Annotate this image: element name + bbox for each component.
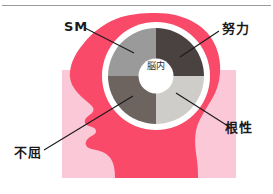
- callout-label-doryoku: 努力: [222, 22, 249, 35]
- callout-label-sm: SM: [64, 20, 88, 33]
- brain-pie-diagram: SM 努力 根性 不屈 脳内: [0, 0, 273, 194]
- callout-label-konjo: 根性: [225, 121, 252, 134]
- center-circle-label: 脳内: [139, 62, 173, 71]
- callout-label-fukutsu: 不屈: [14, 146, 41, 159]
